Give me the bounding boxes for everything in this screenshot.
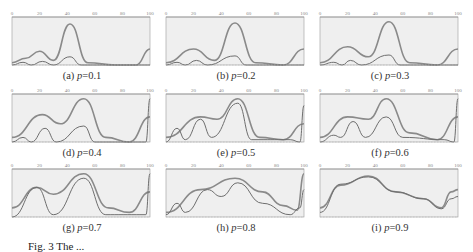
svg-text:80: 80 xyxy=(274,163,280,168)
svg-text:100: 100 xyxy=(300,11,308,16)
panel-g: 020406080100(g) p=0.7 xyxy=(8,160,156,236)
svg-text:60: 60 xyxy=(400,163,406,168)
svg-text:0: 0 xyxy=(319,88,322,93)
svg-text:40: 40 xyxy=(373,88,379,93)
svg-text:80: 80 xyxy=(428,11,434,16)
svg-text:100: 100 xyxy=(300,88,308,93)
plot-a: 020406080100 xyxy=(8,8,156,68)
svg-text:80: 80 xyxy=(120,88,126,93)
svg-text:60: 60 xyxy=(92,163,98,168)
svg-text:40: 40 xyxy=(219,88,225,93)
svg-text:80: 80 xyxy=(428,163,434,168)
panel-caption: (a) p=0.1 xyxy=(8,70,156,81)
svg-text:80: 80 xyxy=(120,11,126,16)
panel-caption: (b) p=0.2 xyxy=(162,70,310,81)
svg-text:80: 80 xyxy=(120,163,126,168)
svg-text:60: 60 xyxy=(246,11,252,16)
svg-text:0: 0 xyxy=(319,11,322,16)
svg-text:100: 100 xyxy=(454,88,462,93)
svg-text:40: 40 xyxy=(65,88,71,93)
plot-h: 020406080100 xyxy=(162,160,310,220)
svg-text:100: 100 xyxy=(300,163,308,168)
svg-text:0: 0 xyxy=(11,163,14,168)
svg-text:20: 20 xyxy=(191,88,197,93)
panel-b: 020406080100(b) p=0.2 xyxy=(162,8,310,84)
svg-text:80: 80 xyxy=(428,88,434,93)
svg-text:80: 80 xyxy=(274,11,280,16)
svg-text:20: 20 xyxy=(191,11,197,16)
svg-text:0: 0 xyxy=(165,11,168,16)
panel-caption: (g) p=0.7 xyxy=(8,222,156,233)
figure-caption: Fig. 3 The ... xyxy=(28,240,84,252)
plot-f: 020406080100 xyxy=(316,85,464,145)
svg-text:100: 100 xyxy=(146,88,154,93)
plot-e: 020406080100 xyxy=(162,85,310,145)
svg-text:20: 20 xyxy=(191,163,197,168)
svg-text:40: 40 xyxy=(65,163,71,168)
svg-text:0: 0 xyxy=(319,163,322,168)
panel-d: 020406080100(d) p=0.4 xyxy=(8,85,156,161)
panel-i: 020406080100(i) p=0.9 xyxy=(316,160,464,236)
panel-caption: (e) p=0.5 xyxy=(162,147,310,158)
svg-text:60: 60 xyxy=(246,88,252,93)
svg-text:20: 20 xyxy=(37,88,43,93)
panel-e: 020406080100(e) p=0.5 xyxy=(162,85,310,161)
plot-c: 020406080100 xyxy=(316,8,464,68)
svg-text:0: 0 xyxy=(165,163,168,168)
plot-i: 020406080100 xyxy=(316,160,464,220)
svg-text:40: 40 xyxy=(219,11,225,16)
svg-text:40: 40 xyxy=(373,11,379,16)
svg-text:40: 40 xyxy=(65,11,71,16)
svg-text:100: 100 xyxy=(454,11,462,16)
panel-c: 020406080100(c) p=0.3 xyxy=(316,8,464,84)
svg-text:0: 0 xyxy=(11,11,14,16)
svg-text:100: 100 xyxy=(454,163,462,168)
svg-text:20: 20 xyxy=(37,11,43,16)
panel-caption: (i) p=0.9 xyxy=(316,222,464,233)
svg-text:80: 80 xyxy=(274,88,280,93)
svg-text:60: 60 xyxy=(246,163,252,168)
plot-b: 020406080100 xyxy=(162,8,310,68)
panel-caption: (d) p=0.4 xyxy=(8,147,156,158)
svg-text:60: 60 xyxy=(92,88,98,93)
svg-text:60: 60 xyxy=(400,11,406,16)
svg-text:100: 100 xyxy=(146,11,154,16)
svg-text:40: 40 xyxy=(373,163,379,168)
svg-text:20: 20 xyxy=(345,163,351,168)
svg-text:40: 40 xyxy=(219,163,225,168)
svg-text:0: 0 xyxy=(11,88,14,93)
panel-caption: (f) p=0.6 xyxy=(316,147,464,158)
svg-text:60: 60 xyxy=(92,11,98,16)
svg-text:20: 20 xyxy=(37,163,43,168)
svg-text:20: 20 xyxy=(345,88,351,93)
plot-g: 020406080100 xyxy=(8,160,156,220)
svg-text:60: 60 xyxy=(400,88,406,93)
panel-a: 020406080100(a) p=0.1 xyxy=(8,8,156,84)
svg-text:0: 0 xyxy=(165,88,168,93)
panel-f: 020406080100(f) p=0.6 xyxy=(316,85,464,161)
plot-d: 020406080100 xyxy=(8,85,156,145)
panel-caption: (c) p=0.3 xyxy=(316,70,464,81)
panel-h: 020406080100(h) p=0.8 xyxy=(162,160,310,236)
svg-text:100: 100 xyxy=(146,163,154,168)
svg-text:20: 20 xyxy=(345,11,351,16)
panel-caption: (h) p=0.8 xyxy=(162,222,310,233)
